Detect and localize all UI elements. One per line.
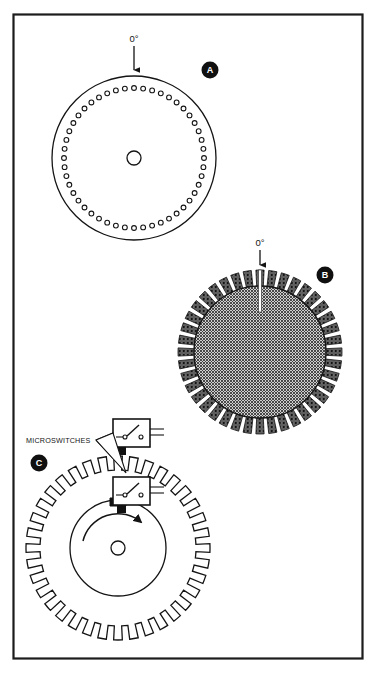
disc-a-hole xyxy=(82,106,87,111)
disc-a-hole xyxy=(141,86,146,91)
badge-a-letter: A xyxy=(207,65,214,75)
disc-a-hole xyxy=(201,165,206,170)
disc-a-hole xyxy=(187,198,192,203)
disc-a-hole xyxy=(132,86,137,91)
disc-a-hole xyxy=(64,137,69,142)
disc-a-hole xyxy=(97,95,102,100)
disc-a-hole xyxy=(158,91,163,96)
disc-a-hole xyxy=(62,165,67,170)
disc-a-hole xyxy=(122,86,127,91)
disc-a-hole xyxy=(141,225,146,230)
badge-a: A xyxy=(202,62,219,79)
disc-a-hole xyxy=(150,88,155,93)
microswitches-label: MICROSWITCHES xyxy=(26,436,91,445)
disc-a-hole xyxy=(113,88,118,93)
disc-a-hole xyxy=(201,146,206,151)
microswitch-upper-common-terminal xyxy=(123,435,127,439)
microswitch-lower-body[interactable] xyxy=(113,477,150,505)
microswitch-lower-plunger xyxy=(117,505,126,513)
microswitch-lower-contact xyxy=(139,493,143,497)
disc-a-hole xyxy=(187,113,192,118)
disc-a-hole xyxy=(105,91,110,96)
disc-a-hole xyxy=(89,211,94,216)
disc-a-hole xyxy=(196,182,201,187)
disc-a-hole xyxy=(167,95,172,100)
technical-figure: 0° 0° xyxy=(0,0,377,674)
disc-a-hole xyxy=(62,146,67,151)
disc-a-hole xyxy=(199,174,204,179)
disc-a-hole xyxy=(62,156,67,161)
zero-degree-label-a: 0° xyxy=(129,33,138,44)
microswitch-upper-body[interactable] xyxy=(113,419,150,447)
disc-a-hole xyxy=(105,220,110,225)
disc-a-hole xyxy=(192,121,197,126)
cam-center-hole xyxy=(111,541,125,555)
disc-a-hole xyxy=(89,100,94,105)
disc-a-hole xyxy=(196,129,201,134)
figure-canvas: 0° 0° xyxy=(0,0,377,674)
disc-b-rim-segment xyxy=(324,348,342,356)
disc-a-hole xyxy=(158,220,163,225)
badge-c-letter: C xyxy=(36,458,43,468)
disc-a-hole xyxy=(71,121,76,126)
disc-a-hole xyxy=(167,216,172,221)
disc-b-index-slot xyxy=(259,270,262,312)
disc-a-hole xyxy=(132,226,137,231)
disc-a-hole xyxy=(76,198,81,203)
disc-a-hole xyxy=(202,156,207,161)
microswitch-upper-contact xyxy=(139,435,143,439)
zero-degree-label-b: 0° xyxy=(255,237,264,248)
disc-a-hole xyxy=(76,113,81,118)
disc-a-center-hub xyxy=(127,151,141,165)
disc-a-hole xyxy=(67,129,72,134)
disc-a-hole xyxy=(150,223,155,228)
disc-a-hole xyxy=(82,205,87,210)
disc-a-hole xyxy=(174,211,179,216)
microswitch-lower-common-terminal xyxy=(123,493,127,497)
disc-a-hole xyxy=(97,216,102,221)
disc-a-hole xyxy=(64,174,69,179)
badge-b-letter: B xyxy=(322,270,329,280)
disc-b-rim-segment xyxy=(256,416,264,434)
disc-a-hole xyxy=(174,100,179,105)
disc-a-hole xyxy=(122,225,127,230)
disc-a-hole xyxy=(199,137,204,142)
disc-a-hole xyxy=(181,106,186,111)
disc-a-hole xyxy=(113,223,118,228)
disc-a-hole xyxy=(181,205,186,210)
disc-a-hole xyxy=(67,182,72,187)
badge-c: C xyxy=(31,455,48,472)
disc-a-hole xyxy=(71,191,76,196)
badge-b: B xyxy=(317,267,334,284)
disc-a-hole xyxy=(192,191,197,196)
disc-b-rim-segment xyxy=(178,348,196,356)
